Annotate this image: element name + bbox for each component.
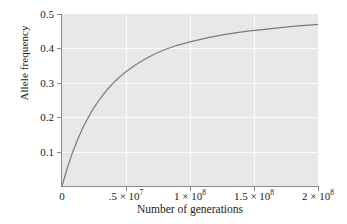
- x-axis-tick-label-exponent: 8: [270, 188, 274, 197]
- x-axis-tick-label-mantissa: 0: [59, 190, 65, 202]
- y-axis-line: [61, 14, 62, 186]
- x-axis-title: Number of generations: [62, 203, 318, 215]
- x-axis-tick-label-exponent: 8: [202, 188, 206, 197]
- y-axis-tick: [57, 48, 62, 49]
- data-curve: [62, 14, 318, 186]
- x-axis-tick-label-exponent: 7: [140, 188, 144, 197]
- y-axis-tick: [57, 83, 62, 84]
- x-axis-tick-label: 2 × 108: [283, 190, 347, 202]
- y-axis-tick-label: 0.2: [14, 112, 54, 123]
- y-axis-tick: [57, 117, 62, 118]
- y-axis-tick: [57, 14, 62, 15]
- x-axis-tick-label-mantissa: .5 × 10: [109, 190, 140, 202]
- x-axis-tick-label: 1 × 108: [155, 190, 225, 202]
- y-axis-tick-label: 0.4: [14, 43, 54, 54]
- x-axis-tick-label-mantissa: 1.5 × 10: [234, 190, 270, 202]
- plot-area: [62, 14, 318, 186]
- x-axis-tick-label-mantissa: 2 × 10: [302, 190, 330, 202]
- x-axis-tick-label: 0: [27, 190, 97, 202]
- y-axis-tick-label: 0.5: [14, 9, 54, 20]
- y-axis-tick-label: 0.1: [14, 147, 54, 158]
- x-axis-tick-label: 1.5 × 108: [219, 190, 289, 202]
- y-axis-tick-label: 0.3: [14, 78, 54, 89]
- x-axis-tick-label-exponent: 8: [330, 188, 334, 197]
- y-axis-tick: [57, 152, 62, 153]
- chart-figure: Allele frequency 0.5 0.4 0.3 0.2 0.1 0 .…: [0, 0, 347, 224]
- x-axis-tick-label: .5 × 107: [91, 190, 161, 202]
- x-axis-tick-label-mantissa: 1 × 10: [174, 190, 202, 202]
